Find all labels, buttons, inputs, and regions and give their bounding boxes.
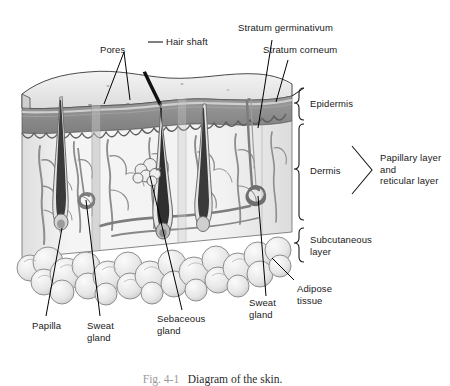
label-papilla: Papilla: [32, 320, 61, 332]
figure-caption: Fig. 4-1 Diagram of the skin.: [137, 358, 282, 386]
label-hair-shaft: Hair shaft: [166, 36, 208, 48]
bracket-connectors: [292, 88, 304, 96]
label-sweat-gland-right: Sweat gland: [249, 297, 276, 320]
bracket-subcutaneous: [294, 228, 304, 262]
skin-block-illustration: [17, 20, 292, 305]
bracket-dermis-sublayers: [352, 146, 372, 194]
label-subcutaneous-layer: Subcutaneous layer: [310, 234, 372, 257]
label-stratum-germinativum: Stratum germinativum: [238, 22, 333, 34]
figure-caption-number: Fig. 4-1: [143, 373, 179, 385]
label-dermis-sublayers: Papillary layer and reticular layer: [380, 152, 441, 187]
bracket-epidermis: [294, 88, 304, 120]
label-stratum-corneum: Stratum corneum: [263, 44, 337, 56]
label-dermis: Dermis: [310, 165, 341, 177]
figure-caption-text: Diagram of the skin.: [188, 373, 283, 385]
label-adipose-tissue: Adipose tissue: [297, 283, 332, 306]
label-pores: Pores: [100, 44, 125, 56]
bracket-dermis: [294, 124, 304, 220]
label-epidermis: Epidermis: [310, 98, 353, 110]
label-sweat-gland-left: Sweat gland: [87, 320, 114, 343]
label-sebaceous-gland: Sebaceous gland: [157, 313, 205, 336]
